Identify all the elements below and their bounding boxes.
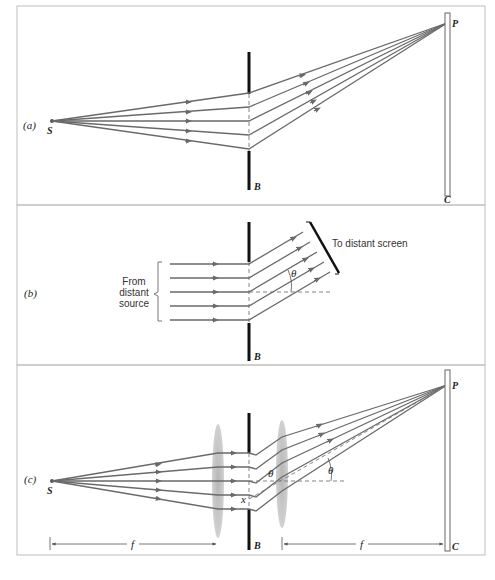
screen-c [445,370,450,551]
screen-c-label-c: C [452,541,459,552]
panel-b-frame [17,205,485,365]
incoming-label-3: source [119,298,149,309]
theta-label-b: θ [291,267,297,279]
theta-label-c2: θ [328,464,334,476]
slit-offset-label: x [240,493,246,505]
screen-a [445,13,450,196]
panel-c-label: (c) [24,473,37,486]
source-label: S [47,125,53,136]
point-p-label: P [452,18,459,29]
barrier-label-b: B [253,351,261,362]
point-p-label-c: P [452,380,459,391]
barrier-label: B [253,181,261,192]
panel-c-frame [17,365,485,555]
panel-b-label: (b) [24,287,37,300]
panel-c: (c) S B [17,365,485,555]
screen-c-label: C [444,194,451,205]
theta-label-c1: θ [268,467,274,479]
incoming-label-1: From [122,276,145,287]
barrier-label-c: B [253,540,261,551]
brace-incoming [154,262,162,321]
incoming-label-2: distant [119,287,149,298]
diffraction-figure: (a) S B P C [0,0,495,580]
panel-a: (a) S B P C [17,6,485,205]
panel-b: (b) From distant source B [17,205,485,365]
source-label-c: S [47,485,53,496]
outgoing-label: To distant screen [332,238,408,249]
panel-a-label: (a) [23,119,36,132]
